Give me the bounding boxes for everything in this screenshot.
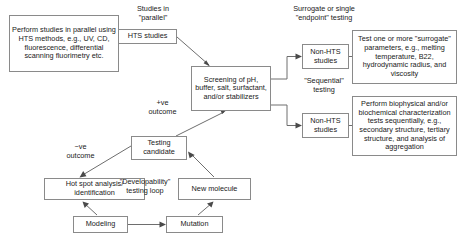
node-modeling[interactable]: Modeling — [73, 216, 128, 233]
node-non-hts-studies-bottom-label: Non-HTS studies — [305, 117, 346, 134]
node-screening-label: Screening of pH, buffer, salt, surfactan… — [194, 76, 268, 102]
flowchart-canvas: Perform studies in parallel using HTS me… — [0, 0, 460, 241]
caption-surrogate-endpoint-testing: Surrogate or single "endpoint" testing — [279, 5, 369, 23]
node-hts-methods-detail[interactable]: Perform studies in parallel using HTS me… — [9, 15, 119, 72]
node-screening[interactable]: Screening of pH, buffer, salt, surfactan… — [191, 66, 271, 111]
arrowhead-new-molecule-to-testing-candidate — [188, 152, 195, 159]
node-testing-candidate[interactable]: Testing candidate — [131, 136, 187, 160]
arrowhead-testing-candidate-to-hot-spot — [80, 171, 87, 178]
caption-positive-outcome: +ve outcome — [140, 99, 185, 117]
caption-negative-outcome: −ve outcome — [58, 143, 103, 161]
node-testing-candidate-label: Testing candidate — [134, 139, 184, 156]
node-mutation-label: Mutation — [169, 220, 220, 229]
node-biophysical-detail[interactable]: Perform biophysical and/or biochemical c… — [352, 96, 457, 156]
edge-mutation-to-new-molecule — [198, 203, 212, 215]
node-biophysical-detail-label: Perform biophysical and/or biochemical c… — [355, 100, 454, 152]
caption-sequential-testing: "Sequential" testing — [289, 77, 359, 95]
node-hts-methods-detail-label: Perform studies in parallel using HTS me… — [12, 26, 116, 60]
node-modeling-label: Modeling — [76, 220, 125, 229]
node-non-hts-studies-bottom[interactable]: Non-HTS studies — [302, 113, 349, 138]
arrowhead-modeling-to-hot-spot — [83, 202, 90, 209]
node-mutation[interactable]: Mutation — [166, 216, 223, 233]
node-new-molecule[interactable]: New molecule — [178, 178, 251, 200]
node-surrogate-detail-label: Test one or more "surrogate" parameters,… — [355, 35, 454, 78]
node-surrogate-detail[interactable]: Test one or more "surrogate" parameters,… — [352, 30, 457, 84]
arrowhead-mutation-to-new-molecule — [207, 202, 214, 208]
node-new-molecule-label: New molecule — [181, 185, 248, 194]
caption-studies-in-parallel: Studies in "parallel" — [123, 5, 183, 23]
edge-hts-studies-to-screening — [177, 37, 209, 65]
node-non-hts-studies-top[interactable]: Non-HTS studies — [302, 44, 349, 69]
node-non-hts-studies-top-label: Non-HTS studies — [305, 48, 346, 65]
node-hts-studies-label: HTS studies — [121, 32, 174, 41]
edge-screening-to-non-hts-top — [271, 57, 300, 80]
edge-modeling-to-hot-spot — [84, 203, 97, 215]
node-hts-studies[interactable]: HTS studies — [118, 29, 177, 44]
edge-new-molecule-to-testing-candidate — [190, 153, 214, 177]
caption-developability-testing-loop: "Developability" testing loop — [113, 178, 177, 196]
edge-screening-to-non-hts-bottom — [271, 105, 300, 126]
